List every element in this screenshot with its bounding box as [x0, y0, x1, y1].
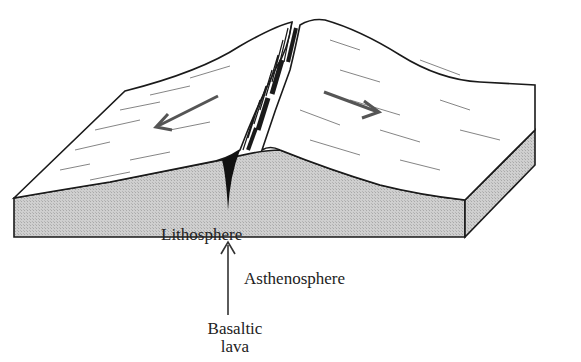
- basaltic-lava-line1: Basaltic: [197, 320, 273, 338]
- lithosphere-label: Lithosphere: [161, 226, 242, 244]
- magma-upwelling-arrow: [221, 242, 235, 315]
- basaltic-lava-line2: lava: [197, 338, 273, 356]
- ridge-block-diagram: [0, 0, 581, 362]
- basaltic-lava-label: Basaltic lava: [197, 320, 273, 356]
- asthenosphere-label: Asthenosphere: [244, 270, 345, 288]
